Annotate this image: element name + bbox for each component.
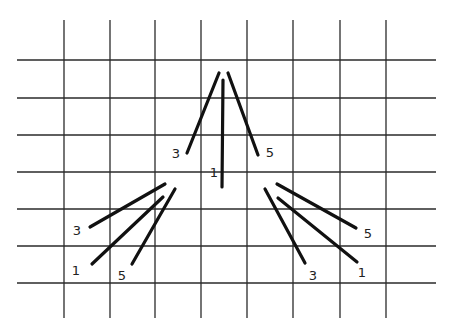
- stitch-diagram: [0, 0, 451, 335]
- background: [0, 0, 451, 335]
- stitch-stroke-top-1: [222, 80, 223, 187]
